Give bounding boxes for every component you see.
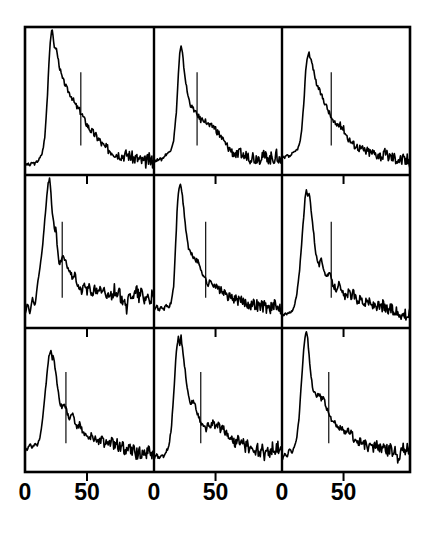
spectrum-trace [282, 190, 410, 320]
x-tick-label-0-col2: 0 [148, 479, 161, 505]
x-tick-label-0-col3: 0 [276, 479, 289, 505]
panel-r2c2 [154, 184, 282, 313]
spectrum-trace [25, 30, 154, 168]
x-tick-label-50-col2: 50 [203, 479, 229, 505]
panels-layer [25, 30, 410, 463]
panel-r2c1 [25, 178, 154, 314]
axis-tick-labels: 050050050 [19, 479, 357, 505]
frame-layer [25, 27, 410, 472]
nine-panel-chart: 050050050 [0, 0, 431, 534]
spectrum-trace [282, 332, 410, 463]
spectrum-trace [25, 178, 154, 314]
panel-r3c1 [25, 350, 154, 459]
spectrum-trace [154, 335, 282, 461]
panel-r1c3 [282, 52, 410, 168]
figure-root: 050050050 [0, 0, 431, 534]
spectrum-trace [154, 184, 282, 313]
spectrum-trace [282, 52, 410, 168]
plot-frame [25, 27, 410, 472]
x-tick-label-50-col3: 50 [331, 479, 357, 505]
panel-r3c3 [282, 332, 410, 463]
panel-r2c3 [282, 190, 410, 320]
panel-r1c1 [25, 30, 154, 168]
x-tick-label-0-col1: 0 [19, 479, 32, 505]
x-tick-label-50-col1: 50 [74, 479, 100, 505]
spectrum-trace [154, 46, 282, 164]
panel-r1c2 [154, 46, 282, 164]
panel-r3c2 [154, 335, 282, 461]
spectrum-trace [25, 350, 154, 459]
